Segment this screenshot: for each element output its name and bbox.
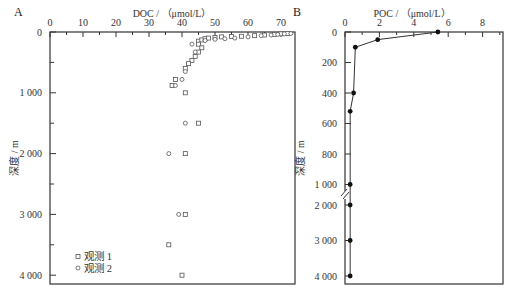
y-tick-label: 1 000 [315, 179, 338, 190]
data-point-circle [269, 33, 273, 37]
data-point-circle [282, 32, 286, 36]
x-tick-label: 6 [446, 17, 451, 28]
y-tick-label: 3 000 [20, 209, 43, 220]
data-point-square [239, 34, 243, 38]
y-tick-label: 400 [322, 88, 337, 99]
data-point-square [183, 91, 187, 95]
data-point-circle [177, 212, 181, 216]
data-point-filled [348, 182, 353, 187]
panel-b-axes-frame [345, 32, 503, 284]
panel-b-plot: 0246802004006008001 0002 0003 0004 000 [315, 17, 504, 284]
data-point-circle [167, 152, 171, 156]
legend-square-marker [76, 255, 80, 259]
legend-circle-marker [76, 266, 80, 270]
data-point-circle [190, 42, 194, 46]
data-point-filled [351, 91, 356, 96]
data-point-circle [246, 35, 250, 39]
y-tick-label: 200 [322, 57, 337, 68]
y-tick-label: 3 000 [315, 235, 338, 246]
axis-break-gap [342, 191, 348, 199]
data-point-circle [289, 32, 293, 36]
x-tick-label: 60 [243, 17, 253, 28]
x-tick-label: 4 [411, 17, 416, 28]
y-tick-label: 1 000 [20, 87, 43, 98]
panel-b-label: B [293, 5, 301, 19]
data-point-circle [203, 39, 207, 43]
y-tick-label: 600 [322, 118, 337, 129]
data-point-circle [183, 121, 187, 125]
y-tick-label: 0 [332, 27, 337, 38]
data-point-square [180, 273, 184, 277]
data-point-square [193, 54, 197, 58]
y-tick-label: 800 [322, 149, 337, 160]
data-point-circle [223, 37, 227, 41]
x-tick-label: 40 [177, 17, 187, 28]
panel-a-label: A [14, 5, 23, 19]
data-point-square [183, 212, 187, 216]
data-point-circle [213, 37, 217, 41]
data-point-square [167, 243, 171, 247]
data-point-filled [353, 45, 358, 50]
data-point-circle [193, 50, 197, 54]
data-point-circle [173, 84, 177, 88]
x-tick-label: 0 [48, 17, 53, 28]
data-point-square [200, 46, 204, 50]
y-tick-label: 2 000 [20, 148, 43, 159]
panel-a-plot: 01020304050607001 0002 0003 0004 000观测 1… [20, 17, 296, 284]
data-point-circle [180, 77, 184, 81]
data-point-square [173, 77, 177, 81]
panel-b-y-axis-title: 深度 / m [294, 140, 306, 176]
chart-canvas: A DOC / （μmol/L） 深度 / m 0102030405060700… [0, 0, 506, 291]
data-point-circle [233, 36, 237, 40]
data-point-square [183, 152, 187, 156]
y-tick-label: 2 000 [315, 200, 338, 211]
x-tick-label: 0 [343, 17, 348, 28]
data-point-filled [348, 238, 353, 243]
x-tick-label: 20 [111, 17, 121, 28]
poc-profile-line [350, 32, 438, 276]
data-point-square [197, 121, 201, 125]
legend: 观测 1观测 2 [76, 250, 112, 274]
legend-label-obs1: 观测 1 [84, 250, 112, 262]
data-point-square [187, 62, 191, 66]
data-point-filled [348, 109, 353, 114]
data-point-circle [259, 34, 263, 38]
data-point-square [253, 34, 257, 38]
data-point-filled [375, 37, 380, 42]
data-point-filled [348, 203, 353, 208]
x-tick-label: 30 [144, 17, 154, 28]
y-tick-label: 4 000 [20, 270, 43, 281]
data-point-filled [435, 30, 440, 35]
y-tick-label: 0 [37, 27, 42, 38]
x-tick-label: 50 [210, 17, 220, 28]
data-point-circle [183, 70, 187, 74]
data-point-filled [348, 274, 353, 279]
legend-label-obs2: 观测 2 [84, 262, 112, 274]
x-tick-label: 2 [377, 17, 382, 28]
y-tick-label: 4 000 [315, 271, 338, 282]
x-tick-label: 8 [480, 17, 485, 28]
panel-a-y-axis-title: 深度 / m [8, 140, 20, 176]
x-tick-label: 10 [78, 17, 88, 28]
data-point-circle [276, 32, 280, 36]
x-tick-label: 70 [276, 17, 286, 28]
panel-a-axes-frame [50, 32, 295, 284]
